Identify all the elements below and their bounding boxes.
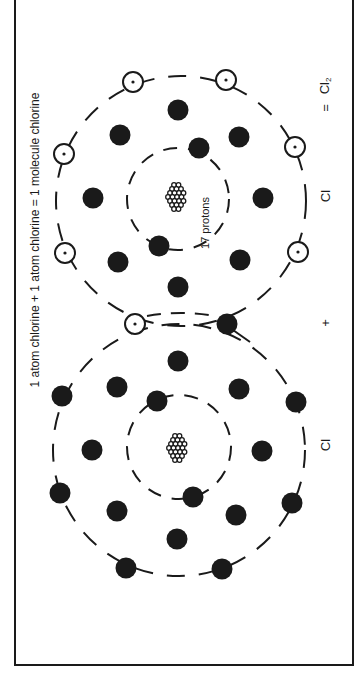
filled-electron-icon bbox=[83, 188, 104, 209]
filled-electron-icon bbox=[108, 252, 129, 273]
filled-electron-icon bbox=[168, 100, 189, 121]
nuclei bbox=[166, 183, 187, 463]
filled-electron-icon bbox=[107, 501, 128, 522]
open-electron-icon bbox=[125, 314, 145, 334]
proton-icon bbox=[176, 207, 181, 212]
open-electron-icon bbox=[288, 242, 308, 262]
filled-electron-icon bbox=[52, 386, 73, 407]
filled-electron-icon bbox=[50, 483, 71, 504]
filled-electron-icon bbox=[167, 529, 188, 550]
filled-electron-icon bbox=[229, 379, 250, 400]
filled-electron-icon bbox=[168, 351, 189, 372]
plus-sign: + bbox=[318, 319, 333, 327]
filled-electron-icon bbox=[217, 314, 238, 335]
equation-title: 1 atom chlorine + 1 atom chlorine = 1 mo… bbox=[28, 93, 42, 388]
open-electron-icon bbox=[55, 243, 75, 263]
filled-electron-icon bbox=[212, 559, 233, 580]
filled-electron-icon bbox=[82, 440, 103, 461]
open-electron-icon bbox=[285, 137, 305, 157]
filled-electron-icon bbox=[116, 558, 137, 579]
product-symbol: Cl2 bbox=[317, 78, 333, 95]
chlorine-bonding-diagram bbox=[0, 0, 358, 676]
filled-electron-icon bbox=[147, 391, 168, 412]
filled-electron-icon bbox=[110, 125, 131, 146]
bond-overlap-dash bbox=[147, 313, 215, 316]
filled-electron-icon bbox=[253, 188, 274, 209]
product-symbol-text: Cl bbox=[317, 82, 332, 94]
proton-icon bbox=[177, 458, 182, 463]
filled-electron-icon bbox=[286, 392, 307, 413]
open-electron-icon bbox=[216, 70, 236, 90]
open-electron-icon bbox=[123, 72, 143, 92]
filled-electron-icon bbox=[229, 127, 250, 148]
product-subscript: 2 bbox=[324, 78, 333, 82]
electron-shells bbox=[53, 76, 306, 576]
filled-electron-icon bbox=[252, 441, 273, 462]
filled-electron-icon bbox=[183, 487, 204, 508]
open-electron-icon bbox=[54, 144, 74, 164]
nucleus-label: 17 protons bbox=[199, 197, 211, 249]
filled-electron-icon bbox=[282, 493, 303, 514]
filled-electron-icon bbox=[107, 377, 128, 398]
nucleus-1 bbox=[166, 183, 186, 212]
atom1-symbol: Cl bbox=[318, 439, 333, 451]
atom2-symbol: Cl bbox=[318, 190, 333, 202]
filled-electron-icon bbox=[226, 505, 247, 526]
filled-electron-icon bbox=[189, 138, 210, 159]
equals-sign: = bbox=[318, 104, 333, 112]
filled-electron-icon bbox=[149, 236, 170, 257]
nucleus-2 bbox=[167, 434, 187, 463]
bond-tangent-line bbox=[233, 330, 250, 342]
filled-electron-icon bbox=[168, 277, 189, 298]
filled-electron-icon bbox=[230, 250, 251, 271]
